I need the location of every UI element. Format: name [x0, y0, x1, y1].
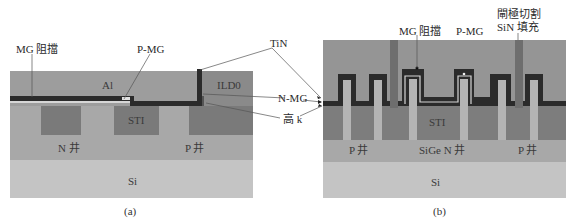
label-sin-fill: SiN 填充	[497, 21, 539, 33]
label-mg-block-a: MG 阻擋	[16, 43, 58, 55]
label-p-mg-b: P-MG	[456, 25, 484, 37]
sti-block-a1	[41, 106, 81, 135]
label-sti-a: STI	[128, 114, 145, 126]
label-mg-block-b: MG 阻擋	[399, 25, 441, 37]
si-substrate-b	[323, 162, 566, 198]
p-mg-layer	[10, 101, 134, 103]
label-n-well-a: N 井	[58, 142, 80, 154]
label-tin: TiN	[270, 37, 287, 49]
label-si-b: Si	[431, 176, 440, 188]
label-p-well-a: P 井	[185, 142, 204, 154]
label-gate-cut: 閘極切割	[497, 8, 541, 20]
label-al: Al	[102, 79, 113, 91]
label-ild0: ILD0	[217, 79, 241, 91]
label-p-well-b-right: P 井	[518, 144, 537, 156]
label-n-mg: N-MG	[278, 92, 307, 104]
gate-cut-sin-right	[515, 40, 523, 108]
label-high-k: 高 k	[283, 113, 302, 125]
caption-a: (a)	[124, 205, 136, 217]
gate-cut-sin-left	[390, 40, 398, 108]
label-sti-b: STI	[429, 116, 446, 128]
n-mg-layer-a	[130, 101, 202, 106]
label-p-mg-a: P-MG	[137, 43, 165, 55]
label-p-well-b-left: P 井	[349, 144, 368, 156]
label-si-a: Si	[128, 175, 137, 187]
mg-block-layer	[10, 96, 134, 101]
caption-b: (b)	[433, 205, 446, 217]
label-sige-n-well: SiGe N 井	[419, 144, 465, 156]
diagram-canvas	[0, 0, 573, 220]
tin-liner-a	[197, 69, 202, 106]
